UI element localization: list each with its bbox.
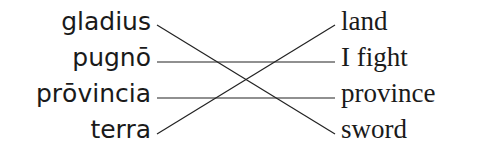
right-term-land: land [341, 8, 388, 35]
right-term-province: province [341, 80, 435, 107]
right-term-sword: sword [341, 116, 407, 143]
right-term-i-fight: I fight [341, 44, 408, 71]
